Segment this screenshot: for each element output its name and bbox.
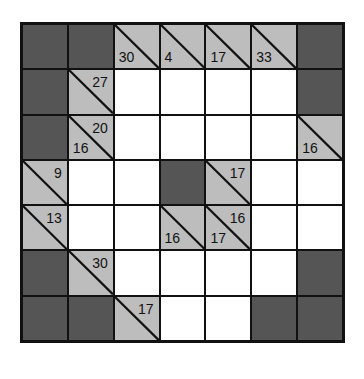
blocked-cell	[160, 160, 206, 205]
clue-cell: 9	[22, 160, 68, 205]
blocked-cell	[297, 24, 343, 69]
clue-cell: 17	[205, 160, 251, 205]
entry-cell[interactable]	[251, 160, 297, 205]
entry-cell[interactable]	[114, 69, 160, 114]
clue-cell: 1716	[205, 205, 251, 250]
across-sum-clue: 17	[230, 166, 246, 180]
entry-cell[interactable]	[160, 115, 206, 160]
down-sum-clue: 33	[256, 50, 272, 64]
entry-cell[interactable]	[68, 205, 114, 250]
blocked-cell	[22, 115, 68, 160]
blocked-cell	[22, 69, 68, 114]
blocked-cell	[297, 250, 343, 295]
across-sum-clue: 30	[92, 256, 108, 270]
clue-cell: 1620	[68, 115, 114, 160]
across-sum-clue: 16	[230, 211, 246, 225]
clue-cell: 17	[205, 24, 251, 69]
across-sum-clue: 20	[92, 121, 108, 135]
across-sum-clue: 9	[54, 166, 62, 180]
blocked-cell	[22, 296, 68, 341]
entry-cell[interactable]	[114, 250, 160, 295]
blocked-cell	[297, 69, 343, 114]
blocked-cell	[297, 296, 343, 341]
clue-cell: 30	[68, 250, 114, 295]
clue-cell: 27	[68, 69, 114, 114]
entry-cell[interactable]	[251, 250, 297, 295]
across-sum-clue: 13	[46, 211, 62, 225]
entry-cell[interactable]	[297, 160, 343, 205]
across-sum-clue: 17	[138, 302, 154, 316]
down-sum-clue: 16	[73, 141, 89, 155]
entry-cell[interactable]	[297, 205, 343, 250]
down-sum-clue: 30	[119, 50, 135, 64]
entry-cell[interactable]	[251, 115, 297, 160]
clue-cell: 33	[251, 24, 297, 69]
entry-cell[interactable]	[251, 205, 297, 250]
clue-cell: 30	[114, 24, 160, 69]
entry-cell[interactable]	[114, 160, 160, 205]
entry-cell[interactable]	[68, 160, 114, 205]
down-sum-clue: 4	[165, 50, 173, 64]
clue-cell: 4	[160, 24, 206, 69]
down-sum-clue: 16	[165, 231, 181, 245]
entry-cell[interactable]	[205, 115, 251, 160]
blocked-cell	[22, 24, 68, 69]
entry-cell[interactable]	[160, 250, 206, 295]
entry-cell[interactable]	[205, 69, 251, 114]
entry-cell[interactable]	[114, 205, 160, 250]
clue-cell: 16	[297, 115, 343, 160]
entry-cell[interactable]	[251, 69, 297, 114]
entry-cell[interactable]	[205, 296, 251, 341]
down-sum-clue: 17	[210, 231, 226, 245]
kakuro-board: 304173327162016917131617163017	[20, 22, 345, 343]
entry-cell[interactable]	[114, 115, 160, 160]
blocked-cell	[251, 296, 297, 341]
blocked-cell	[22, 250, 68, 295]
clue-cell: 13	[22, 205, 68, 250]
entry-cell[interactable]	[160, 296, 206, 341]
across-sum-clue: 27	[92, 75, 108, 89]
blocked-cell	[68, 24, 114, 69]
clue-cell: 17	[114, 296, 160, 341]
down-sum-clue: 17	[210, 50, 226, 64]
entry-cell[interactable]	[160, 69, 206, 114]
down-sum-clue: 16	[302, 141, 318, 155]
clue-cell: 16	[160, 205, 206, 250]
blocked-cell	[68, 296, 114, 341]
entry-cell[interactable]	[205, 250, 251, 295]
